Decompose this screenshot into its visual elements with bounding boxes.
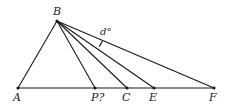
- point-c: [125, 86, 128, 89]
- label-a: A: [12, 91, 21, 104]
- angle-arc-d: [99, 41, 102, 47]
- label-e: E: [148, 91, 157, 104]
- geometry-diagram: B A P? C E F d°: [0, 0, 229, 107]
- segment-bc: [57, 21, 127, 88]
- angle-label-d: d°: [100, 26, 111, 37]
- segment-bf: [57, 21, 214, 88]
- label-c: C: [122, 91, 131, 104]
- segment-ba: [18, 21, 57, 88]
- point-a: [16, 86, 19, 89]
- point-p: [93, 86, 96, 89]
- label-p: P?: [90, 91, 104, 104]
- label-f: F: [208, 91, 217, 104]
- segment-bp: [57, 21, 95, 88]
- label-b: B: [52, 5, 61, 18]
- point-f: [212, 86, 215, 89]
- point-e: [152, 86, 155, 89]
- point-b: [55, 19, 58, 22]
